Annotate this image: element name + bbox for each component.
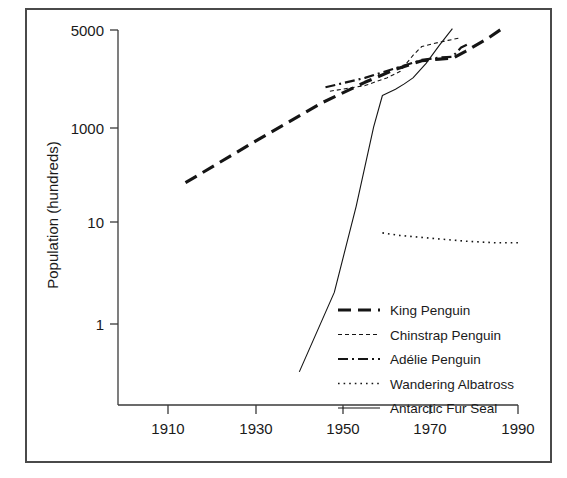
y-tick-label-1000: 1000 xyxy=(71,120,104,137)
legend-label: Chinstrap Penguin xyxy=(390,328,501,343)
series-group xyxy=(186,27,519,372)
legend-item-antarctic-fur-seal[interactable]: Antarctic Fur Seal xyxy=(338,401,497,416)
y-tick-label-10: 10 xyxy=(87,214,104,231)
series-line-chinstrap-penguin xyxy=(330,38,461,91)
x-tick-label-1910: 1910 xyxy=(151,420,184,437)
chart-canvas: 5000 1000 10 1 1910 1930 1950 1970 1990 … xyxy=(0,0,567,478)
y-tick-label-1: 1 xyxy=(96,316,104,333)
x-tick-label-1970: 1970 xyxy=(413,420,446,437)
series-line-king-penguin xyxy=(186,27,505,183)
series-line-ad-lie-penguin xyxy=(326,43,470,87)
legend-item-king-penguin[interactable]: King Penguin xyxy=(338,303,470,318)
series-line-antarctic-fur-seal xyxy=(299,29,452,372)
axis-lines xyxy=(118,30,518,405)
legend-item-chinstrap-penguin[interactable]: Chinstrap Penguin xyxy=(338,328,501,343)
y-axis-ticks: 5000 1000 10 1 xyxy=(71,22,118,333)
x-tick-label-1930: 1930 xyxy=(239,420,272,437)
legend-label: Antarctic Fur Seal xyxy=(390,401,497,416)
series-line-wandering-albatross xyxy=(382,233,518,243)
legend-item-ad-lie-penguin[interactable]: Adélie Penguin xyxy=(338,352,481,367)
chart-figure: 5000 1000 10 1 1910 1930 1950 1970 1990 … xyxy=(0,0,567,478)
chart-legend: King PenguinChinstrap PenguinAdélie Peng… xyxy=(338,303,514,416)
legend-label: King Penguin xyxy=(390,303,470,318)
legend-label: Wandering Albatross xyxy=(390,377,514,392)
y-tick-label-5000: 5000 xyxy=(71,22,104,39)
legend-item-wandering-albatross[interactable]: Wandering Albatross xyxy=(338,377,514,392)
y-axis-title: Population (hundreds) xyxy=(44,141,61,289)
x-tick-label-1990: 1990 xyxy=(501,420,534,437)
x-tick-label-1950: 1950 xyxy=(326,420,359,437)
legend-label: Adélie Penguin xyxy=(390,352,481,367)
